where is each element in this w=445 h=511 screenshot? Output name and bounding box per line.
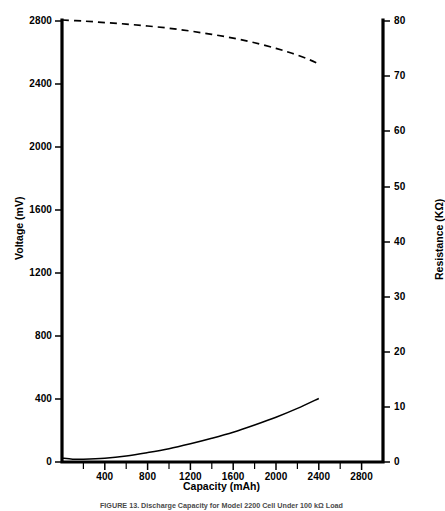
right-tick-label-50: 50 bbox=[394, 182, 405, 192]
left-tick-label-2000: 2000 bbox=[14, 142, 52, 152]
right-tick-label-10: 10 bbox=[394, 402, 405, 412]
figure-caption: FIGURE 13. Discharge Capacity for Model … bbox=[0, 501, 443, 510]
right-tick-label-70: 70 bbox=[394, 71, 405, 81]
series-resistance-solid bbox=[62, 398, 319, 459]
y-axis-title-left: Voltage (mV) bbox=[14, 197, 25, 260]
axis-frame bbox=[62, 20, 383, 462]
left-tick-label-800: 800 bbox=[14, 331, 52, 341]
left-tick-label-400: 400 bbox=[14, 394, 52, 404]
x-axis-title: Capacity (mAh) bbox=[0, 481, 443, 492]
series-voltage-dashed bbox=[62, 20, 319, 64]
left-tick-label-0: 0 bbox=[14, 457, 52, 467]
right-tick-label-30: 30 bbox=[394, 292, 405, 302]
y-axis-title-right: Resistance (KΩ) bbox=[434, 199, 445, 280]
left-tick-label-2400: 2400 bbox=[14, 79, 52, 89]
right-tick-label-0: 0 bbox=[394, 457, 400, 467]
right-tick-label-60: 60 bbox=[394, 126, 405, 136]
right-tick-label-20: 20 bbox=[394, 347, 405, 357]
left-tick-label-1200: 1200 bbox=[14, 268, 52, 278]
right-tick-label-80: 80 bbox=[394, 16, 405, 26]
right-tick-label-40: 40 bbox=[394, 237, 405, 247]
left-tick-label-2800: 2800 bbox=[14, 16, 52, 26]
